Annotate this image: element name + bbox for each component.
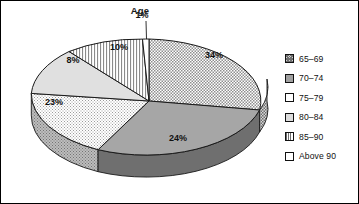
legend-label-80-84: 80–84 [299, 112, 323, 122]
legend-swatch-vertical-lines-icon [285, 132, 294, 141]
legend-item-70-74[interactable]: 70–74 [285, 69, 359, 89]
pie-label-75-79: 23% [45, 97, 63, 107]
legend-item-75-79[interactable]: 75–79 [285, 88, 359, 108]
pie-chart-svg: 34% 24% 23% 8% 10% 1% [1, 1, 281, 204]
legend-label-70-74: 70–74 [299, 73, 323, 83]
legend-item-65-69[interactable]: 65–69 [285, 49, 359, 69]
legend-item-85-90[interactable]: 85–90 [285, 127, 359, 147]
chart-legend: 65–69 70–74 75–79 80–84 85–90 Above 90 [285, 49, 359, 166]
legend-swatch-crosshatch-icon [285, 54, 294, 63]
legend-item-above-90[interactable]: Above 90 [285, 147, 359, 167]
legend-swatch-white-icon [285, 152, 294, 161]
pie-label-above-90: 1% [135, 10, 148, 20]
pie-label-70-74: 24% [169, 133, 187, 143]
legend-item-80-84[interactable]: 80–84 [285, 108, 359, 128]
legend-label-75-79: 75–79 [299, 93, 323, 103]
pie-label-65-69: 34% [205, 50, 223, 60]
legend-swatch-dots-icon [285, 93, 294, 102]
chart-figure: Age [0, 0, 359, 204]
legend-swatch-light-gray-icon [285, 113, 294, 122]
legend-label-65-69: 65–69 [299, 54, 323, 64]
pie-leader-line-above-90 [146, 21, 147, 39]
legend-label-above-90: Above 90 [299, 151, 336, 161]
pie-label-80-84: 8% [66, 55, 79, 65]
pie-chart-plot-area: 34% 24% 23% 8% 10% 1% [1, 1, 281, 204]
legend-label-85-90: 85–90 [299, 132, 323, 142]
pie-label-85-90: 10% [110, 42, 128, 52]
legend-swatch-solid-gray-icon [285, 74, 294, 83]
